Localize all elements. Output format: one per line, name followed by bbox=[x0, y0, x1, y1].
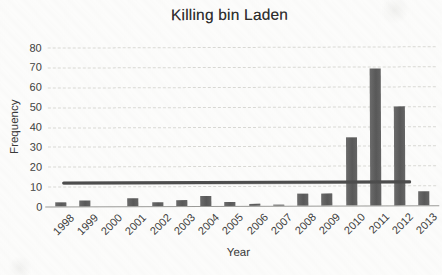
mean-line bbox=[62, 180, 411, 184]
gridline bbox=[48, 46, 436, 48]
y-tick-label: 20 bbox=[0, 160, 42, 172]
y-tick-labels: 01020304050607080 bbox=[0, 0, 442, 1]
bar-2004 bbox=[200, 196, 211, 206]
x-tick-label: 2011 bbox=[366, 210, 391, 235]
x-tick-label: 2010 bbox=[341, 211, 367, 237]
x-tick-label: 2012 bbox=[390, 210, 416, 236]
x-tick-label: 2005 bbox=[220, 211, 246, 237]
bar-2011 bbox=[370, 68, 381, 205]
x-tick-label: 2003 bbox=[171, 211, 197, 237]
x-tick-labels: 1998199920002001200220032004200520062007… bbox=[0, 0, 442, 1]
y-tick-label: 10 bbox=[0, 180, 42, 192]
y-tick-label: 0 bbox=[0, 200, 42, 212]
y-tick-label: 30 bbox=[0, 140, 42, 152]
bar-2012 bbox=[394, 106, 405, 205]
y-tick-label: 60 bbox=[0, 81, 42, 93]
bar-2013 bbox=[419, 191, 430, 205]
scanned-page: Killing bin Laden Frequency 010203040506… bbox=[0, 0, 442, 275]
y-tick-label: 70 bbox=[0, 61, 42, 73]
bar-2008 bbox=[297, 194, 308, 206]
x-tick-label: 2007 bbox=[268, 211, 294, 237]
x-tick-label: 2006 bbox=[244, 211, 270, 237]
x-tick-label: 2000 bbox=[99, 211, 125, 237]
bar-2010 bbox=[346, 138, 357, 206]
x-tick-label: 2001 bbox=[123, 211, 149, 237]
x-tick-label: 1999 bbox=[74, 211, 100, 237]
x-tick-label: 2008 bbox=[293, 211, 319, 237]
chart-title: Killing bin Laden bbox=[171, 6, 288, 24]
x-tick-label: 1998 bbox=[50, 212, 76, 238]
x-tick-label: 2009 bbox=[317, 211, 343, 237]
y-tick-label: 80 bbox=[0, 41, 42, 53]
y-tick-label: 50 bbox=[0, 101, 42, 113]
x-tick-label: 2002 bbox=[147, 211, 173, 237]
plot-area bbox=[48, 46, 437, 206]
gridlines bbox=[48, 46, 436, 47]
x-tick-label: 2004 bbox=[196, 211, 222, 237]
bar-chart: Killing bin Laden Frequency 010203040506… bbox=[0, 0, 442, 275]
x-axis-line bbox=[45, 205, 439, 207]
bar-2009 bbox=[322, 194, 333, 206]
bar-2001 bbox=[128, 198, 139, 206]
y-tick-label: 40 bbox=[0, 121, 42, 133]
x-tick-label: 2013 bbox=[414, 210, 440, 236]
x-axis-title: Year bbox=[227, 246, 250, 258]
